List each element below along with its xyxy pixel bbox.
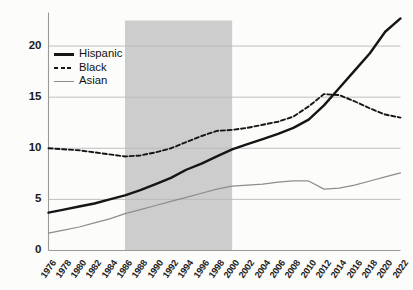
legend-label-black: Black xyxy=(79,62,107,73)
dashed-line-key xyxy=(54,62,74,73)
thin-line-key xyxy=(54,75,74,86)
solid-line-key xyxy=(54,48,74,59)
y-tick-label: 20 xyxy=(29,39,42,51)
chart-plot-svg xyxy=(0,0,413,290)
legend-item-hispanic: Hispanic xyxy=(54,47,122,61)
y-tick-label: 10 xyxy=(29,141,42,153)
y-tick-label: 0 xyxy=(35,243,41,255)
legend-label-asian: Asian xyxy=(79,75,107,86)
chart-figure: Hispanic Black Asian 1976197819801982198… xyxy=(0,0,413,290)
y-tick-label: 15 xyxy=(29,90,42,102)
chart-legend: Hispanic Black Asian xyxy=(54,47,122,88)
legend-item-black: Black xyxy=(54,61,122,75)
legend-label-hispanic: Hispanic xyxy=(79,48,122,59)
shaded-band-group xyxy=(125,21,232,251)
legend-item-asian: Asian xyxy=(54,74,122,88)
y-tick-label: 5 xyxy=(35,192,41,204)
highlight-band xyxy=(125,21,232,251)
